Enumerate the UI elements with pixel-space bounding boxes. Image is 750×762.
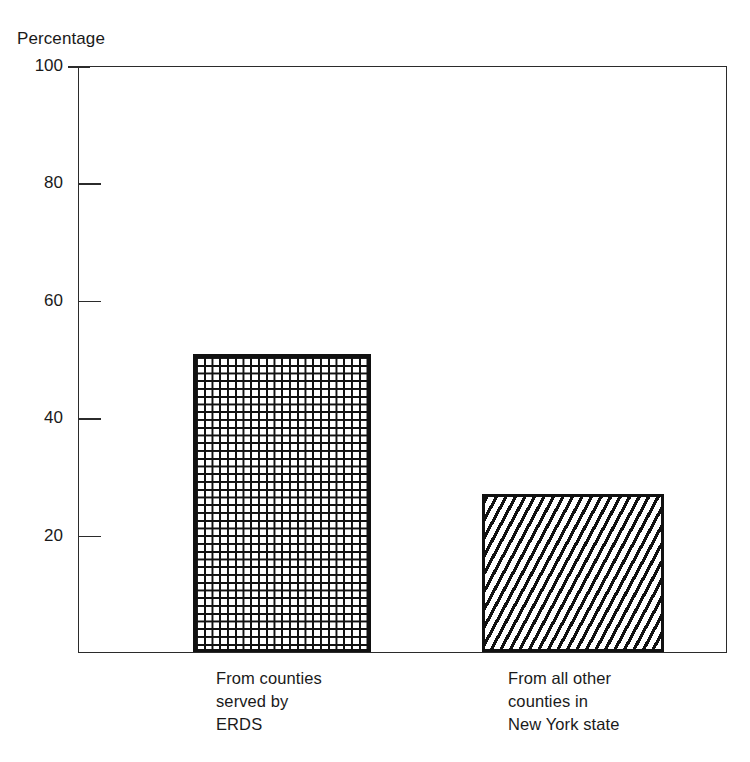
y-tick-label-60: 60	[11, 291, 71, 311]
bar-1-pattern	[485, 497, 661, 649]
x-category-label-0: From countiesserved byERDS	[216, 667, 322, 736]
y-tick-label-80: 80	[11, 173, 71, 193]
y-tick-label-100: 100	[11, 56, 71, 76]
bar-from-all-other-counties-in-new-york-state	[482, 494, 664, 652]
x-category-label-1: From all othercounties inNew York state	[508, 667, 619, 736]
x-category-label-1-line2: counties in	[508, 692, 588, 710]
y-axis-title: Percentage	[17, 29, 105, 49]
bar-0-pattern	[196, 357, 368, 649]
bar-chart-figure: Percentage 100 80 60 40 20	[0, 0, 750, 762]
y-tick-label-40: 40	[11, 408, 71, 428]
x-category-label-0-line2: served by	[216, 692, 288, 710]
x-category-label-0-line1: From counties	[216, 669, 322, 687]
x-category-label-0-line3: ERDS	[216, 715, 262, 733]
y-tick-mark-80	[79, 183, 101, 185]
y-tick-mark-20	[79, 536, 101, 538]
y-tick-mark-60	[79, 301, 101, 303]
y-tick-label-20: 20	[11, 526, 71, 546]
bar-0-weave-overlay-a	[196, 357, 368, 649]
x-category-label-1-line3: New York state	[508, 715, 619, 733]
bar-0-weave-overlay-b	[196, 357, 368, 649]
plot-area: 100 80 60 40 20	[78, 66, 727, 653]
y-tick-mark-40	[79, 418, 101, 420]
bar-from-counties-served-by-erds	[193, 354, 371, 652]
y-tick-mark-100	[68, 66, 90, 68]
x-category-label-1-line1: From all other	[508, 669, 611, 687]
